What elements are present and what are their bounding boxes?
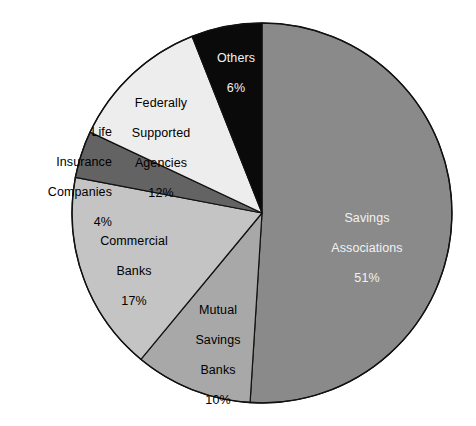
pie-chart-canvas [0,0,476,426]
pie-slice-group [72,23,452,403]
pie-slice-savings-associations [250,23,452,403]
pie-chart: Savings Associations 51% Others 6% Feder… [0,0,476,426]
